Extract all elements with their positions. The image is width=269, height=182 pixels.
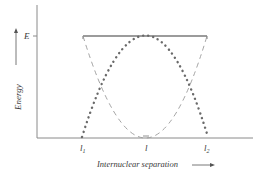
x-axis-label: Internuclear separation xyxy=(96,159,178,169)
x-axis-arrowhead-icon xyxy=(210,163,215,167)
tick-label-l: l xyxy=(145,143,148,153)
tick-label-l2: l2 xyxy=(204,143,210,154)
y-axis-arrowhead-icon xyxy=(14,28,18,33)
kinetic-energy-curve xyxy=(82,36,208,138)
potential-energy-curve xyxy=(83,36,207,138)
energy-level-label: E xyxy=(23,31,30,41)
energy-diagram: E Energy l1 l l2 Internuclear separation xyxy=(0,0,269,182)
tick-label-l1: l1 xyxy=(80,143,86,154)
y-axis-label-group: Energy xyxy=(13,84,23,111)
y-axis-label: Energy xyxy=(13,84,23,111)
